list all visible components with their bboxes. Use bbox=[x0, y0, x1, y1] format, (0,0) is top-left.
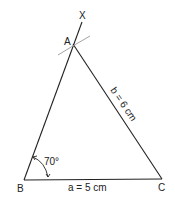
side-a-label: a = 5 cm bbox=[68, 182, 107, 193]
triangle-diagram: X A B C 70° a = 5 cm b = 6 cm bbox=[0, 0, 175, 199]
vertex-label-x: X bbox=[79, 10, 86, 21]
vertex-label-a: A bbox=[64, 36, 71, 47]
vertex-label-c: C bbox=[158, 182, 165, 193]
angle-b-label: 70° bbox=[44, 156, 59, 167]
vertex-label-b: B bbox=[17, 183, 24, 194]
construction-arc bbox=[58, 36, 90, 55]
side-b-ac bbox=[73, 44, 162, 179]
side-a-bc bbox=[24, 179, 162, 180]
